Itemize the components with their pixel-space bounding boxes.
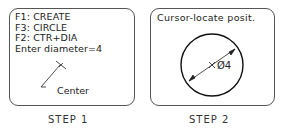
step2-caption: STEP 2 [189,114,229,125]
drawing-overlay [0,0,282,139]
center-leader-line [41,65,60,87]
diameter-dimension-line [189,49,235,81]
step1-caption: STEP 1 [48,114,88,125]
